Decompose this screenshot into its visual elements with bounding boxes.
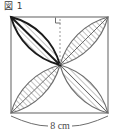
geometry-diagram: 8 cm [0,0,120,140]
figure-container: 図 1 [0,0,120,140]
dimension-label: 8 cm [50,120,70,131]
